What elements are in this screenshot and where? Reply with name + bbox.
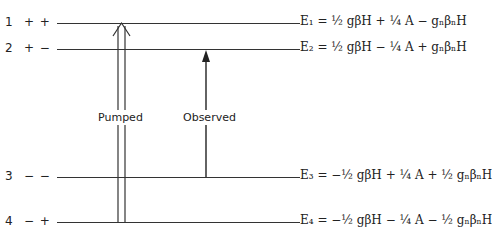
level-2-energy: E₂ = ½ gβH − ¼ A + gₙβₙH bbox=[300, 40, 467, 54]
pumped-label: Pumped bbox=[97, 110, 144, 125]
level-2-number: 2 bbox=[5, 41, 13, 55]
observed-label: Observed bbox=[182, 110, 237, 125]
level-3-spins: − − bbox=[24, 169, 51, 183]
level-4-energy: E₄ = −½ gβH − ¼ A − ½ gₙβₙH bbox=[300, 213, 492, 227]
level-1-number: 1 bbox=[5, 15, 13, 29]
level-4-number: 4 bbox=[5, 214, 13, 228]
level-1-spins: + + bbox=[24, 15, 51, 29]
level-4-line bbox=[57, 222, 300, 223]
level-1-line bbox=[57, 23, 300, 24]
level-3-line bbox=[57, 177, 300, 178]
level-4-spins: − + bbox=[24, 214, 51, 228]
level-2-line bbox=[57, 49, 300, 50]
level-2-spins: + − bbox=[24, 41, 51, 55]
level-1-energy: E₁ = ½ gβH + ¼ A − gₙβₙH bbox=[300, 14, 467, 28]
level-3-number: 3 bbox=[5, 169, 13, 183]
level-3-energy: E₃ = −½ gβH + ¼ A + ½ gₙβₙH bbox=[300, 168, 492, 182]
